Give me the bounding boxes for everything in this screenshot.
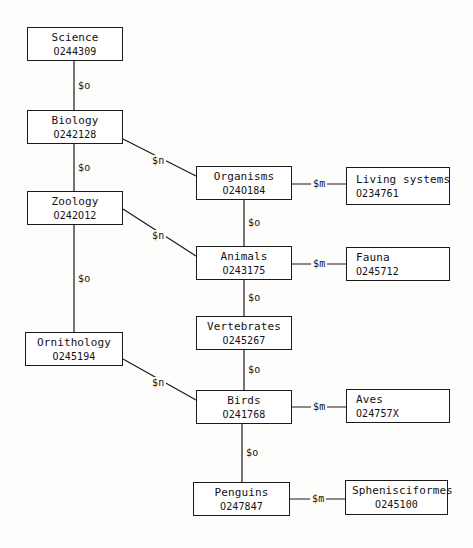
edge-label-zoology-ornithology: $o [76, 273, 92, 285]
node-penguins[interactable]: PenguinsO247847 [193, 482, 290, 516]
node-code: O234761 [353, 187, 443, 200]
diagram-canvas: ScienceO244309BiologyO242128ZoologyO242O… [0, 0, 473, 548]
node-fauna[interactable]: FaunaO245712 [346, 247, 450, 281]
node-animals[interactable]: AnimalsO243175 [196, 246, 292, 280]
edge-label-animals-vertebrates: $o [246, 292, 262, 304]
node-science[interactable]: ScienceO244309 [27, 27, 123, 61]
node-code: O244309 [34, 45, 116, 58]
node-term: Penguins [200, 486, 283, 500]
node-code: O245712 [353, 265, 443, 278]
edge-label-vertebrates-birds: $o [246, 364, 262, 376]
node-birds[interactable]: BirdsO241768 [196, 390, 292, 424]
node-code: O24O184 [203, 184, 285, 197]
edge-label-science-biology: $o [76, 80, 92, 92]
node-term: Organisms [203, 170, 285, 184]
node-term: Sphenisciformes [352, 484, 441, 498]
node-sphenisciformes[interactable]: SphenisciformesO245100 [345, 480, 448, 515]
node-ornithology[interactable]: OrnithologyO245194 [25, 332, 123, 366]
edge-label-biology-zoology: $o [76, 162, 92, 174]
node-term: Aves [353, 393, 443, 407]
edge-label-organisms-animals: $o [246, 217, 262, 229]
node-code: O247847 [200, 500, 283, 513]
node-code: O24757X [353, 407, 443, 420]
node-term: Biology [34, 114, 116, 128]
node-vertebrates[interactable]: VertebratesO245267 [196, 316, 292, 350]
node-code: O242128 [34, 128, 116, 141]
node-code: O245194 [32, 350, 116, 363]
node-organisms[interactable]: OrganismsO24O184 [196, 166, 292, 200]
node-living-systems[interactable]: Living systemsO234761 [346, 167, 450, 205]
node-term: Zoology [34, 195, 116, 209]
edge-label-animals-fauna: $m [311, 258, 327, 270]
edge-label-penguins-sphenisciformes: $m [310, 493, 326, 505]
edge-label-organisms-living-systems: $m [311, 178, 327, 190]
node-aves[interactable]: AvesO24757X [346, 389, 450, 423]
node-term: Fauna [353, 251, 443, 265]
edge-label-birds-penguins: $o [244, 447, 260, 459]
edge-label-biology-organisms: $n [150, 155, 166, 167]
node-code: O242O12 [34, 209, 116, 222]
node-term: Science [34, 31, 116, 45]
node-code: O245100 [352, 498, 441, 511]
node-code: O241768 [203, 408, 285, 421]
edge-label-zoology-animals: $n [150, 230, 166, 242]
node-term: Animals [203, 250, 285, 264]
node-term: Birds [203, 394, 285, 408]
node-term: Vertebrates [203, 320, 285, 334]
node-biology[interactable]: BiologyO242128 [27, 110, 123, 144]
node-term: Living systems [353, 173, 443, 187]
node-term: Ornithology [32, 336, 116, 350]
edge-label-birds-aves: $m [311, 401, 327, 413]
edge-label-ornithology-birds: $n [150, 377, 166, 389]
node-zoology[interactable]: ZoologyO242O12 [27, 191, 123, 225]
node-code: O243175 [203, 264, 285, 277]
node-code: O245267 [203, 334, 285, 347]
